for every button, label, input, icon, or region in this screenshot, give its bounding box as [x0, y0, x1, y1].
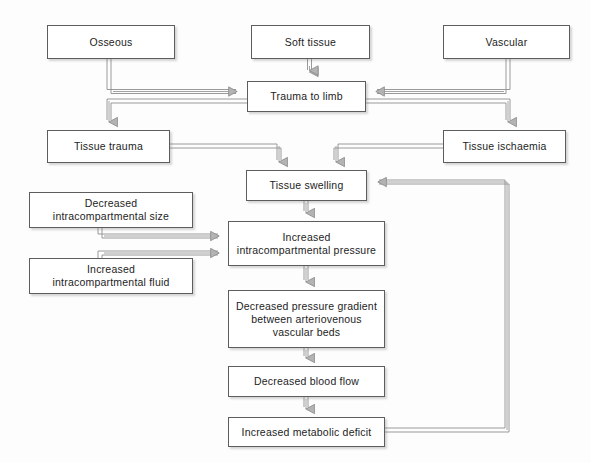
- node-tissue-ischaemia[interactable]: Tissue ischaemia: [443, 130, 566, 163]
- edge-trauma-to-tissue-isch: [366, 99, 510, 122]
- node-label: Tissue swelling: [266, 179, 348, 192]
- node-label: Increased intracompartmental fluid: [48, 263, 173, 289]
- node-label: Increased intracompartmental pressure: [233, 231, 380, 257]
- edge-inc-fluid-to-pressure: [98, 251, 219, 258]
- node-label: Decreased pressure gradient between arte…: [232, 300, 381, 339]
- node-osseous[interactable]: Osseous: [47, 25, 175, 59]
- node-trauma-to-limb[interactable]: Trauma to limb: [247, 81, 366, 112]
- edge-vascular-to-trauma: [376, 59, 510, 94]
- node-decreased-blood-flow[interactable]: Decreased blood flow: [228, 366, 385, 397]
- node-vascular[interactable]: Vascular: [443, 25, 570, 59]
- node-label: Tissue ischaemia: [458, 140, 550, 153]
- edge-metabolic-to-swelling: [378, 180, 509, 432]
- node-soft-tissue[interactable]: Soft tissue: [251, 25, 370, 59]
- node-label: Osseous: [86, 36, 137, 49]
- edge-tissue-trauma-to-swelling: [170, 144, 281, 162]
- node-label: Decreased intracompartmental size: [49, 197, 173, 223]
- edge-soft-tissue-to-trauma: [308, 59, 312, 72]
- node-tissue-swelling[interactable]: Tissue swelling: [246, 170, 367, 201]
- edge-osseous-to-trauma: [107, 59, 237, 94]
- node-decreased-pressure-gradient[interactable]: Decreased pressure gradient between arte…: [228, 290, 385, 348]
- node-label: Soft tissue: [281, 36, 340, 49]
- node-increased-intracompartmental-pressure[interactable]: Increased intracompartmental pressure: [228, 221, 385, 266]
- node-label: Decreased blood flow: [250, 375, 363, 388]
- edge-tissue-isch-to-swelling: [334, 144, 443, 162]
- flowchart-canvas: Osseous Soft tissue Vascular Trauma to l…: [0, 0, 591, 463]
- edge-pressure-to-gradient: [304, 266, 308, 282]
- edge-flow-to-metabolic: [304, 397, 308, 409]
- node-increased-intracompartmental-fluid[interactable]: Increased intracompartmental fluid: [29, 258, 193, 294]
- node-label: Tissue trauma: [70, 140, 147, 153]
- node-label: Trauma to limb: [266, 90, 347, 103]
- node-decreased-intracompartmental-size[interactable]: Decreased intracompartmental size: [29, 192, 193, 228]
- edge-trauma-to-tissue-trauma: [107, 99, 247, 122]
- edge-swelling-to-pressure: [304, 201, 308, 213]
- edge-dec-size-to-pressure: [98, 228, 219, 238]
- node-label: Increased metabolic deficit: [238, 426, 376, 439]
- node-tissue-trauma[interactable]: Tissue trauma: [47, 130, 170, 163]
- edge-gradient-to-flow: [304, 348, 308, 358]
- node-increased-metabolic-deficit[interactable]: Increased metabolic deficit: [228, 417, 385, 447]
- node-label: Vascular: [482, 36, 532, 49]
